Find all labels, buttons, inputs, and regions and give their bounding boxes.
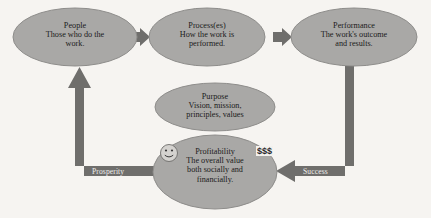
smiley-face-icon (161, 145, 178, 162)
node-performance[interactable] (291, 8, 417, 66)
connector-profitability-to-people (68, 67, 168, 176)
node-processes[interactable] (149, 8, 265, 66)
diagram-canvas (0, 0, 431, 218)
node-purpose[interactable] (155, 83, 275, 131)
connector-process-to-performance (273, 28, 292, 46)
connector-performance-to-profitability (276, 66, 354, 182)
node-people[interactable] (13, 8, 137, 66)
